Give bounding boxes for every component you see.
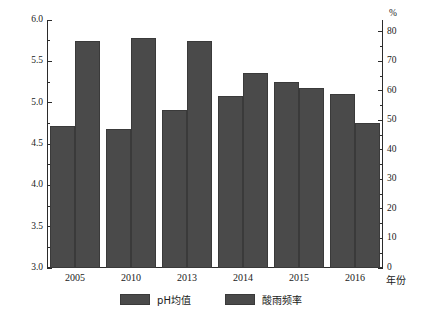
x-axis-category-label: 2010 [103, 272, 159, 283]
right-axis-tick-label: 60 [387, 86, 397, 96]
left-axis-tick-label: 3.0 [31, 263, 43, 273]
right-axis-tick-label: 50 [387, 115, 397, 125]
bar-acid-rain-frequency [355, 123, 380, 268]
x-axis-category-label: 2015 [271, 272, 327, 283]
left-axis-tick-label: 3.5 [31, 222, 43, 232]
bar-group [218, 20, 268, 268]
bar-acid-rain-frequency [75, 41, 100, 268]
bar-ph-mean [50, 126, 75, 268]
legend-swatch-icon [120, 294, 150, 305]
right-axis-tick-label: 40 [387, 145, 397, 155]
right-axis-tick-label: 30 [387, 174, 397, 184]
right-axis-tick-label: 80 [387, 27, 397, 37]
bar-group [106, 20, 156, 268]
chart-legend: pH均值酸雨频率 [0, 292, 422, 307]
right-axis-tick-label: 10 [387, 233, 397, 243]
x-axis-category-label: 2005 [47, 272, 103, 283]
chart-figure: 3.03.54.04.55.05.56.0 01020304050607080 … [0, 0, 422, 323]
x-axis-title: 年份 [386, 272, 406, 287]
bar-ph-mean [218, 96, 243, 268]
bar-ph-mean [274, 82, 299, 268]
left-axis-tick-label: 5.0 [31, 98, 43, 108]
x-axis-category-label: 2016 [327, 272, 383, 283]
bar-acid-rain-frequency [299, 88, 324, 268]
x-axis-category-label: 2013 [159, 272, 215, 283]
left-axis-tick-label: 4.0 [31, 180, 43, 190]
legend-item[interactable]: pH均值 [120, 292, 191, 307]
right-axis-unit-label: % [389, 8, 397, 18]
x-axis-category-label: 2014 [215, 272, 271, 283]
bar-ph-mean [330, 94, 355, 268]
bar-group [274, 20, 324, 268]
bar-acid-rain-frequency [187, 41, 212, 268]
bar-group [330, 20, 380, 268]
bar-acid-rain-frequency [243, 73, 268, 268]
legend-label: pH均值 [157, 292, 191, 307]
left-axis-tick-label: 5.5 [31, 56, 43, 66]
bar-group [162, 20, 212, 268]
right-axis-tick-label: 20 [387, 204, 397, 214]
legend-item[interactable]: 酸雨频率 [225, 292, 302, 307]
legend-swatch-icon [225, 294, 255, 305]
bar-acid-rain-frequency [131, 38, 156, 268]
plot-area: 3.03.54.04.55.05.56.0 01020304050607080 … [47, 20, 383, 268]
bar-group [50, 20, 100, 268]
left-axis-tick-label: 6.0 [31, 15, 43, 25]
left-axis-tick-label: 4.5 [31, 139, 43, 149]
bar-series-container [47, 20, 383, 268]
right-axis-tick-label: 70 [387, 56, 397, 66]
legend-label: 酸雨频率 [262, 292, 302, 307]
bar-ph-mean [162, 110, 187, 268]
bar-ph-mean [106, 129, 131, 268]
